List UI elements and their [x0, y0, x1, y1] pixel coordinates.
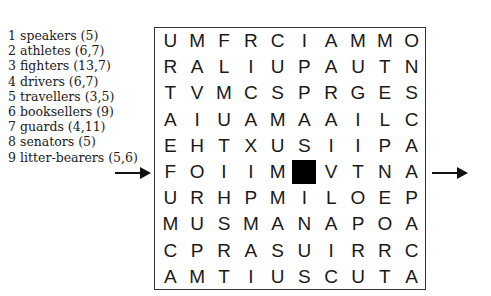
grid-letter: M — [264, 185, 291, 211]
grid-letter: H — [211, 185, 238, 211]
grid-letter: M — [371, 28, 398, 54]
grid-letter: F — [157, 159, 184, 185]
grid-letter: A — [318, 107, 345, 133]
clue-number: 3 — [8, 58, 20, 73]
grid-letter: P — [291, 80, 318, 106]
grid-letter: E — [371, 80, 398, 106]
grid-letter: T — [371, 54, 398, 80]
grid-letter: I — [318, 238, 345, 264]
grid-letter: L — [318, 185, 345, 211]
clue-number: 7 — [8, 119, 20, 134]
grid-letter: P — [291, 54, 318, 80]
clue-text: fighters (13,7) — [20, 58, 111, 73]
clue-number: 8 — [8, 134, 20, 149]
clue-number: 5 — [8, 89, 20, 104]
exit-arrow-icon — [432, 172, 458, 174]
grid-letter: C — [157, 238, 184, 264]
grid-letter: P — [398, 185, 425, 211]
grid-letter: P — [184, 238, 211, 264]
grid-letter: T — [211, 133, 238, 159]
clue-item: 7guards (4,11) — [8, 119, 138, 134]
clue-number: 6 — [8, 104, 20, 119]
grid-letter: U — [291, 238, 318, 264]
grid-letter: S — [264, 238, 291, 264]
grid-letter: A — [398, 159, 425, 185]
clue-text: booksellers (9) — [20, 104, 114, 119]
clue-item: 8senators (5) — [8, 134, 138, 149]
black-square — [292, 160, 316, 184]
grid-letter: V — [318, 159, 345, 185]
clue-item: 2athletes (6,7) — [8, 43, 138, 58]
grid-letter: I — [237, 264, 264, 290]
grid-letter: A — [398, 264, 425, 290]
grid-letter: C — [398, 107, 425, 133]
grid-letter: M — [157, 211, 184, 237]
grid-letter: O — [371, 211, 398, 237]
grid-letter: R — [345, 238, 372, 264]
grid-letter: M — [345, 28, 372, 54]
clue-text: speakers (5) — [20, 28, 98, 43]
grid-letter: M — [184, 28, 211, 54]
grid-letter: O — [398, 28, 425, 54]
grid-letter: A — [398, 211, 425, 237]
grid-letter: S — [211, 211, 238, 237]
grid-letter: N — [398, 54, 425, 80]
clue-item: 6booksellers (9) — [8, 104, 138, 119]
grid-letter: I — [291, 185, 318, 211]
grid-letter: U — [211, 107, 238, 133]
grid-letter: I — [345, 133, 372, 159]
grid-letter: C — [318, 264, 345, 290]
grid-letter: A — [157, 264, 184, 290]
grid-letter: C — [264, 28, 291, 54]
grid-letter: T — [371, 264, 398, 290]
grid-letter: O — [345, 185, 372, 211]
clue-list: 1speakers (5)2athletes (6,7)3fighters (1… — [8, 28, 138, 165]
grid-letter: R — [211, 238, 238, 264]
grid-letter: M — [211, 80, 238, 106]
grid-letter: C — [237, 80, 264, 106]
grid-letter: A — [318, 211, 345, 237]
grid-letter: U — [345, 54, 372, 80]
grid-letter: P — [345, 211, 372, 237]
grid-letter: I — [237, 54, 264, 80]
grid-letter: R — [371, 238, 398, 264]
grid-letter: T — [345, 159, 372, 185]
grid-letter: A — [398, 133, 425, 159]
clue-text: guards (4,11) — [20, 119, 105, 134]
grid-letter: E — [371, 185, 398, 211]
grid-letter: L — [211, 54, 238, 80]
grid-letter: M — [264, 107, 291, 133]
grid-letter: H — [184, 133, 211, 159]
grid-letter: U — [184, 211, 211, 237]
clue-text: travellers (3,5) — [20, 89, 114, 104]
grid-letter: P — [371, 133, 398, 159]
clue-item: 4drivers (6,7) — [8, 74, 138, 89]
grid-letter: R — [237, 28, 264, 54]
clue-text: litter-bearers (5,6) — [20, 150, 138, 165]
grid-letter: R — [157, 54, 184, 80]
clue-text: drivers (6,7) — [20, 74, 98, 89]
grid-letter: M — [237, 211, 264, 237]
grid-letter: I — [318, 133, 345, 159]
clue-number: 2 — [8, 43, 20, 58]
grid-letter: A — [184, 54, 211, 80]
grid-letter: O — [184, 159, 211, 185]
grid-letter: U — [157, 28, 184, 54]
grid-letter: P — [237, 185, 264, 211]
grid-letter: N — [291, 211, 318, 237]
grid-letter: R — [184, 185, 211, 211]
entry-arrow-icon — [115, 172, 141, 174]
grid-letter: I — [237, 159, 264, 185]
grid-letter: C — [398, 238, 425, 264]
grid-letter: I — [291, 28, 318, 54]
clue-number: 9 — [8, 150, 20, 165]
clue-item: 5travellers (3,5) — [8, 89, 138, 104]
grid-letter: E — [157, 133, 184, 159]
clue-item: 9litter-bearers (5,6) — [8, 150, 138, 165]
grid-letter: I — [345, 107, 372, 133]
clue-item: 3fighters (13,7) — [8, 58, 138, 73]
grid-letter: T — [211, 264, 238, 290]
grid-letter: M — [184, 264, 211, 290]
grid-letter: I — [211, 159, 238, 185]
grid-letter: U — [264, 54, 291, 80]
